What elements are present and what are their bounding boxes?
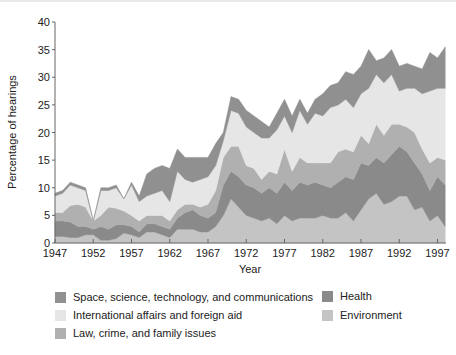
legend-swatch-international [55, 310, 66, 321]
y-tick-label: 20 [38, 127, 50, 139]
x-tick-label: 1952 [81, 247, 105, 259]
x-tick-label: 1987 [349, 247, 373, 259]
y-tick-label: 10 [38, 182, 50, 194]
x-tick-label: 1997 [425, 247, 449, 259]
y-tick-label: 15 [38, 154, 50, 166]
y-axis-title: Percentage of hearings [6, 75, 18, 189]
area-layers [55, 47, 445, 243]
legend-item-law: Law, crime, and family issues [55, 327, 216, 339]
x-tick-label: 1962 [158, 247, 182, 259]
x-tick-label: 1947 [43, 247, 67, 259]
legend-swatch-environment [322, 310, 333, 321]
x-axis-title: Year [239, 263, 262, 275]
x-tick-label: 1977 [272, 247, 296, 259]
y-tick-label: 35 [38, 44, 50, 56]
legend-label-health: Health [340, 290, 372, 302]
y-tick-label: 40 [38, 16, 50, 28]
x-tick-label: 1992 [387, 247, 411, 259]
legend-item-international: International affairs and foreign aid [55, 309, 242, 321]
y-tick-label: 25 [38, 99, 50, 111]
legend-item-environment: Environment [322, 309, 402, 321]
y-tick-label: 5 [44, 209, 50, 221]
legend-label-international: International affairs and foreign aid [73, 309, 242, 321]
legend-label-environment: Environment [340, 309, 402, 321]
legend-label-space: Space, science, technology, and communic… [73, 291, 313, 303]
y-tick-label: 30 [38, 71, 50, 83]
x-tick-label: 1967 [196, 247, 220, 259]
legend-swatch-health [322, 291, 333, 302]
x-tick-label: 1957 [119, 247, 143, 259]
legend-item-space: Space, science, technology, and communic… [55, 291, 313, 303]
legend-label-law: Law, crime, and family issues [73, 327, 216, 339]
y-axis-ticks: 0510152025303540 [38, 16, 55, 249]
x-tick-label: 1982 [311, 247, 335, 259]
legend-item-health: Health [322, 290, 372, 302]
x-tick-label: 1972 [234, 247, 258, 259]
legend-swatch-law [55, 328, 66, 339]
legend-swatch-space [55, 292, 66, 303]
